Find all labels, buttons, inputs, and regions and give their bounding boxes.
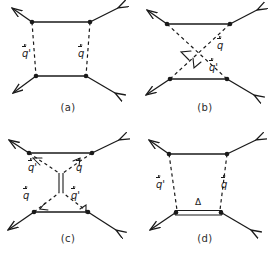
vector-q-glyph: q: [217, 38, 223, 51]
label-q-right: q: [221, 177, 227, 190]
label-q-prime-left: q': [156, 177, 165, 190]
label-q-prime-lower-right: q': [209, 60, 218, 73]
diagram-panel-c: q' q q q' (c): [0, 129, 136, 258]
prime-mark: ': [28, 48, 31, 59]
label-q-prime-bottom-right: q': [71, 188, 80, 201]
prime-mark: ': [77, 190, 80, 201]
diagram-panel-a: q' q (a): [0, 0, 136, 129]
vector-q-glyph: q: [78, 46, 84, 59]
vector-q-glyph: q: [22, 46, 28, 59]
label-q-upper-right: q: [217, 38, 223, 51]
label-q-top-right: q: [76, 160, 82, 173]
vector-q-glyph: q: [76, 160, 82, 173]
vector-q-glyph: q: [23, 188, 29, 201]
vector-q-glyph: q: [71, 188, 77, 201]
vector-q-glyph: q: [221, 177, 227, 190]
prime-mark: ': [215, 62, 218, 73]
panel-caption-d: (d): [137, 233, 273, 244]
vector-q-glyph: q: [28, 160, 34, 173]
label-q-right: q: [78, 46, 84, 59]
diagram-panel-b: q q' (b): [137, 0, 273, 129]
prime-mark: ': [34, 162, 37, 173]
panel-caption-a: (a): [0, 102, 136, 113]
panel-caption-b: (b): [137, 102, 273, 113]
vector-q-glyph: q: [156, 177, 162, 190]
vector-q-glyph: q: [209, 60, 215, 73]
delta-symbol-label: Δ: [195, 197, 201, 207]
diagram-panel-d: q' q Δ (d): [137, 129, 273, 258]
prime-mark: ': [162, 179, 165, 190]
label-q-prime-left: q': [22, 46, 31, 59]
panel-caption-c: (c): [0, 233, 136, 244]
label-q-bottom-left: q: [23, 188, 29, 201]
label-q-prime-top-left: q': [28, 160, 37, 173]
feynman-diagram-figure: q' q (a): [0, 0, 273, 258]
